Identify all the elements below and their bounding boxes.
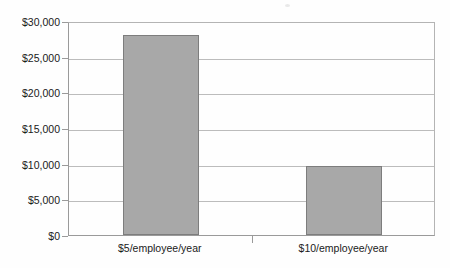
y-axis-tick-label: $10,000 bbox=[0, 159, 68, 170]
bar bbox=[123, 35, 199, 235]
bar-chart: $0$5,000$10,000$15,000$20,000$25,000$30,… bbox=[0, 0, 450, 268]
y-axis-tick-mark bbox=[62, 236, 68, 237]
x-axis-separator-tick bbox=[252, 236, 253, 243]
bar bbox=[306, 166, 382, 235]
y-axis-tick-label: $30,000 bbox=[0, 17, 68, 28]
x-axis-category-label: $5/employee/year bbox=[70, 243, 250, 255]
plot-area bbox=[68, 22, 435, 236]
x-axis-category-label: $10/employee/year bbox=[253, 243, 433, 255]
y-axis-tick-label: $20,000 bbox=[0, 88, 68, 99]
y-axis-tick-label: $15,000 bbox=[0, 124, 68, 135]
y-axis-tick-label: $25,000 bbox=[0, 52, 68, 63]
y-axis-tick-label: $0 bbox=[0, 231, 68, 242]
y-axis-tick-label: $5,000 bbox=[0, 195, 68, 206]
scan-artifact-speck bbox=[285, 4, 290, 7]
